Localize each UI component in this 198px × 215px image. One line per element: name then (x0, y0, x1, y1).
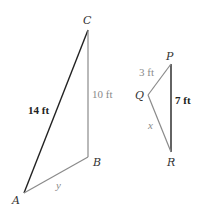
edge-label-pr: 7 ft (175, 94, 191, 106)
vertex-label-q: Q (135, 89, 144, 102)
vertex-label-r: R (166, 156, 175, 169)
edge-label-cb: 10 ft (92, 88, 112, 100)
edge-label-qr: x (147, 119, 153, 131)
triangle-pqr: P Q R 7 ft 3 ft x (135, 50, 191, 169)
edge-label-ab: y (55, 179, 61, 191)
vertex-label-b: B (92, 156, 101, 169)
edge-label-ac: 14 ft (28, 104, 49, 116)
edge-label-pq: 3 ft (139, 66, 154, 78)
vertex-label-c: C (83, 14, 92, 27)
vertex-label-a: A (11, 194, 20, 207)
vertex-label-p: P (165, 50, 174, 63)
triangle-abc: C B A 14 ft 10 ft y (11, 14, 112, 207)
similar-triangles-diagram: C B A 14 ft 10 ft y P Q R 7 ft 3 ft x (0, 0, 198, 215)
